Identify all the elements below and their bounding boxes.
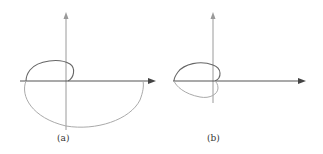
panel-a-caption: (a): [57, 134, 69, 143]
panel-a-lower-loop: [25, 81, 144, 127]
panel-b: [173, 12, 306, 103]
panel-b-lower-lobe: [174, 81, 218, 97]
panel-b-imaginary-axis-arrow-icon: [211, 12, 216, 19]
panel-a-imaginary-axis-arrow-icon: [64, 12, 69, 19]
panel-b-real-axis-arrow-icon: [298, 78, 306, 84]
panel-a: [20, 12, 156, 130]
panel-a-real-axis-arrow-icon: [148, 78, 156, 84]
panel-b-caption: (b): [207, 134, 220, 143]
diagram-canvas: [0, 0, 323, 154]
